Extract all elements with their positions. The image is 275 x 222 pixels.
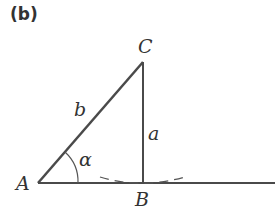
side-label-a: a (148, 122, 159, 144)
angle-label-alpha: α (79, 148, 92, 170)
triangle-diagram: C b a α A B (0, 0, 275, 222)
vertex-label-b: B (134, 188, 149, 210)
side-label-b: b (74, 98, 86, 120)
vertex-label-c: C (138, 35, 153, 57)
angle-arc (65, 152, 78, 183)
vertex-label-a: A (14, 172, 30, 194)
